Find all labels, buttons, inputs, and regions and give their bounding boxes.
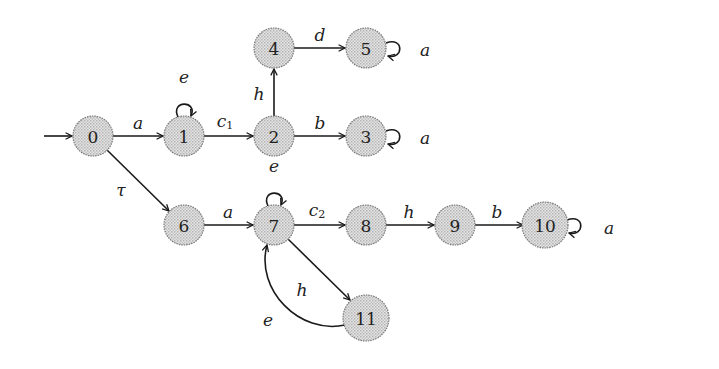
state-3: 3 xyxy=(346,116,386,156)
svg-text:9: 9 xyxy=(450,216,461,236)
svg-text:6: 6 xyxy=(179,216,190,236)
svg-text:e: e xyxy=(263,310,273,330)
edge-7-7-loop: e xyxy=(267,156,283,206)
state-1: 1 xyxy=(164,116,204,156)
state-10: 10 xyxy=(522,202,568,248)
svg-text:c1: c1 xyxy=(217,111,234,132)
svg-text:e: e xyxy=(179,67,189,87)
edge-3-3-loop: a xyxy=(386,128,430,148)
svg-text:b: b xyxy=(315,113,326,133)
edge-7-8: c2 xyxy=(294,200,345,225)
svg-text:11: 11 xyxy=(355,309,377,329)
svg-text:d: d xyxy=(315,25,326,45)
edge-9-10: b xyxy=(475,202,523,225)
svg-text:5: 5 xyxy=(361,39,372,59)
state-6: 6 xyxy=(164,205,204,245)
svg-text:h: h xyxy=(297,280,308,300)
state-8: 8 xyxy=(346,205,386,245)
svg-text:8: 8 xyxy=(361,216,372,236)
svg-text:a: a xyxy=(604,218,614,238)
svg-text:a: a xyxy=(420,40,430,60)
state-9: 9 xyxy=(435,205,475,245)
automaton-diagram: a e c1 h d a b a τ a e c2 xyxy=(0,0,719,369)
svg-text:τ: τ xyxy=(116,180,126,200)
svg-text:a: a xyxy=(133,113,143,133)
state-7: 7 xyxy=(254,205,294,245)
svg-text:2: 2 xyxy=(269,127,280,147)
svg-text:h: h xyxy=(404,202,415,222)
svg-text:h: h xyxy=(254,84,265,104)
edge-1-2: c1 xyxy=(204,111,253,136)
state-5: 5 xyxy=(346,28,386,68)
svg-text:1: 1 xyxy=(179,127,190,147)
svg-text:3: 3 xyxy=(361,127,372,147)
state-4: 4 xyxy=(254,28,294,68)
svg-text:c2: c2 xyxy=(309,200,326,221)
edge-2-4: h xyxy=(254,69,274,116)
edge-5-5-loop: a xyxy=(386,40,430,60)
svg-text:a: a xyxy=(420,128,430,148)
edge-7-11: h xyxy=(288,239,350,300)
svg-text:0: 0 xyxy=(88,127,99,147)
edge-0-6: τ xyxy=(107,150,169,211)
edge-2-3: b xyxy=(294,113,345,136)
edge-0-1: a xyxy=(113,113,163,136)
svg-text:a: a xyxy=(223,202,233,222)
svg-text:7: 7 xyxy=(269,216,280,236)
svg-text:10: 10 xyxy=(534,216,556,236)
svg-text:b: b xyxy=(492,202,503,222)
state-0: 0 xyxy=(73,116,113,156)
edge-8-9: h xyxy=(386,202,434,225)
edge-4-5: d xyxy=(294,25,345,48)
state-2: 2 xyxy=(254,116,294,156)
svg-text:4: 4 xyxy=(269,39,280,59)
edge-6-7: a xyxy=(204,202,253,225)
svg-text:e: e xyxy=(269,156,279,176)
edge-10-10-loop: a xyxy=(567,218,614,238)
edge-1-1-loop: e xyxy=(177,67,193,117)
state-11: 11 xyxy=(343,295,389,341)
